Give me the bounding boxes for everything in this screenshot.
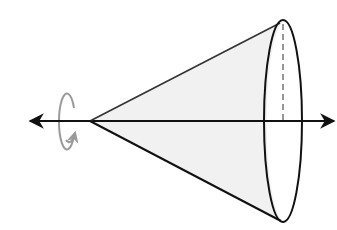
diagram-canvas: Cone of revolution around a horizontal a…	[0, 0, 337, 230]
cone-diagram	[0, 0, 337, 230]
